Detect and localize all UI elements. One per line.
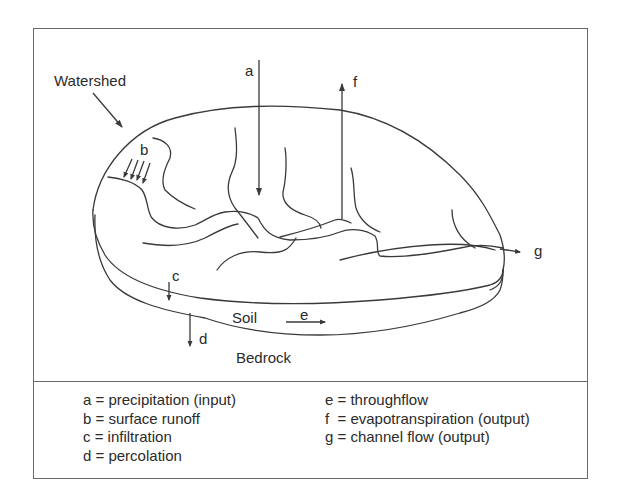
legend-item-e: e = throughflow — [325, 391, 530, 410]
channel-flow-arrow — [500, 249, 520, 252]
label-c: c — [172, 268, 180, 283]
label-a: a — [245, 63, 253, 78]
soil-boundary — [95, 215, 503, 335]
label-f: f — [353, 74, 357, 89]
label-b: b — [140, 142, 148, 157]
legend-item-b: b = surface runoff — [83, 410, 236, 429]
watershed-outline — [93, 106, 504, 270]
legend-right: e = throughflow f = evapotranspiration (… — [325, 391, 530, 447]
legend-item-c: c = infiltration — [83, 428, 236, 447]
legend-left: a = precipitation (input) b = surface ru… — [83, 391, 236, 465]
legend-item-d: d = percolation — [83, 447, 236, 466]
watershed-left-edge — [93, 210, 503, 304]
watershed-pointer-arrow — [93, 93, 122, 127]
bedrock-label: Bedrock — [236, 350, 291, 365]
legend-item-f: f = evapotranspiration (output) — [325, 410, 530, 429]
label-e: e — [300, 307, 308, 322]
soil-label: Soil — [232, 310, 257, 325]
watershed-label: Watershed — [54, 73, 126, 88]
label-g: g — [534, 243, 542, 258]
label-d: d — [199, 331, 207, 346]
legend-item-g: g = channel flow (output) — [325, 428, 530, 447]
legend-item-a: a = precipitation (input) — [83, 391, 236, 410]
